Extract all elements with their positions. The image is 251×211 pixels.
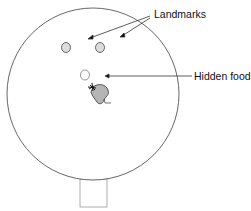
landmark-right	[96, 43, 105, 53]
hidden-food-label: Hidden food	[194, 70, 251, 82]
hidden-food-well	[81, 70, 90, 80]
start-box	[80, 179, 107, 207]
landmarks-label: Landmarks	[154, 8, 206, 20]
landmark-left	[62, 43, 71, 53]
arena-diagram	[0, 0, 251, 211]
